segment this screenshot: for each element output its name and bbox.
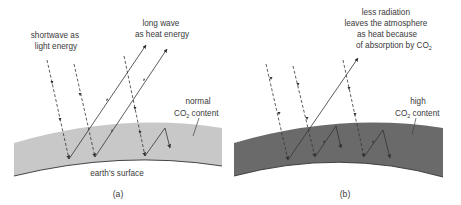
less-radiation-label-line4: of absorption by CO2	[356, 41, 432, 51]
high-co2-label: high	[410, 97, 426, 106]
greenhouse-effect-diagram: shortwave as light energy long wave as h…	[0, 0, 461, 205]
panel-b: less radiation leaves the atmosphere as …	[234, 8, 443, 199]
normal-co2-label: normal	[185, 97, 210, 106]
panel-a: shortwave as light energy long wave as h…	[14, 19, 222, 199]
longwave-label: long wave as heat energy	[135, 19, 190, 39]
shortwave-label: shortwave as light energy	[31, 31, 82, 51]
panel-b-caption: (b)	[340, 189, 351, 199]
normal-co2-label-line2: CO2 content	[174, 109, 219, 119]
less-radiation-label: less radiation leaves the atmosphere as …	[344, 8, 429, 39]
earth-surface-label: earth's surface	[90, 169, 144, 178]
atmosphere-band-normal	[14, 123, 222, 176]
high-co2-label-line2: CO2 content	[395, 109, 440, 119]
panel-a-caption: (a)	[113, 189, 124, 199]
